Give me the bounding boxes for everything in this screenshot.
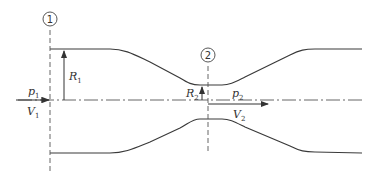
section-2-number: 2 — [205, 50, 211, 61]
v2-label: V2 — [233, 108, 245, 123]
r2-label: R2 — [185, 87, 199, 102]
section-1-number: 1 — [47, 14, 53, 25]
r1-label: R1 — [68, 70, 82, 85]
p1-label: p1 — [28, 85, 40, 100]
v1-label: V1 — [27, 105, 39, 120]
p2-label: p2 — [232, 87, 244, 102]
lower-wall — [50, 119, 362, 153]
venturi-diagram: 1 2 R1 R2 p1 V1 p2 V2 — [0, 0, 378, 176]
